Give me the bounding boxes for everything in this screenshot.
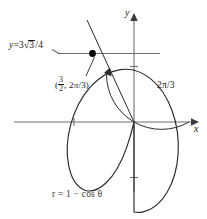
marked-point-label: (32, 2π/3) (55, 76, 89, 92)
figure-canvas (0, 0, 207, 219)
point-comma: , (64, 80, 66, 90)
x-axis-label: x (194, 124, 199, 134)
angle-arc (107, 74, 190, 129)
point-close-paren: ) (86, 80, 89, 90)
cardioid-figure: y=3√3/4 (32, 2π/3) 2π/3 r = 1 − cos θ y … (0, 0, 207, 219)
point-leader-line (86, 57, 95, 76)
marked-point-dot[interactable] (89, 50, 96, 57)
tangent-line-label: y=3√3/4 (9, 40, 43, 51)
polar-equation-label: r = 1 − cos θ (52, 190, 102, 200)
y-axis-arrowhead (130, 13, 138, 21)
tangent-label-sqrt: √3 (24, 40, 35, 51)
tangent-label-denominator: 4 (38, 40, 43, 50)
tangent-leader-line (52, 50, 59, 54)
point-theta-value: 2π/3 (69, 80, 86, 90)
angle-label: 2π/3 (157, 81, 175, 91)
y-axis-label: y (125, 8, 130, 18)
